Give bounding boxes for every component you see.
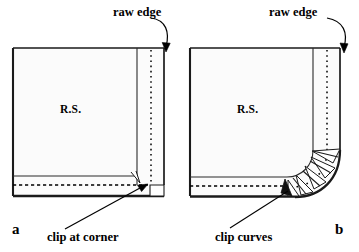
panel-b-fabric-fill	[190, 48, 340, 196]
panel-a-group	[13, 18, 170, 229]
panel-b-raw-edge-arrowhead	[340, 43, 348, 53]
clip-curves-caption: clip curves	[215, 231, 272, 244]
panel-b-raw-edge-leader	[327, 18, 345, 47]
clip-at-corner-caption: clip at corner	[47, 231, 119, 244]
sewing-diagram-svg	[0, 0, 359, 252]
raw-edge-label-panel-a: raw edge	[113, 6, 161, 19]
panel-letter-b: b	[335, 222, 343, 237]
panel-letter-a: a	[12, 222, 20, 237]
right-side-label-panel-b: R.S.	[237, 104, 258, 116]
panel-a-corner-notch	[150, 185, 164, 196]
raw-edge-label-panel-b: raw edge	[269, 6, 317, 19]
panel-a-fabric-fill	[13, 48, 164, 196]
right-side-label-panel-a: R.S.	[60, 104, 81, 116]
figure-canvas: raw edge raw edge R.S. R.S. clip at corn…	[0, 0, 359, 252]
panel-b-group	[190, 18, 348, 228]
